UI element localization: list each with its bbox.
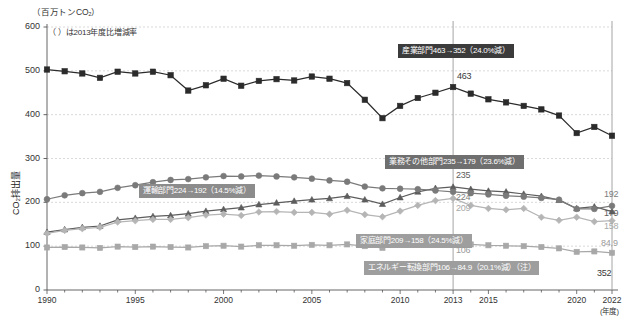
x-tick-2005: 2005 xyxy=(292,295,332,305)
y-tick-400: 400 xyxy=(14,109,40,119)
callout-industry: 産業部門463→352（24.0%減） xyxy=(398,44,514,58)
x-tick-2010: 2010 xyxy=(380,295,420,305)
value-label-household-2013: 209 xyxy=(456,203,470,213)
series-commercial xyxy=(44,184,615,235)
value-label-energy-2013: 106 xyxy=(456,245,470,255)
x-axis-unit: (年度) xyxy=(600,305,619,316)
value-label-commercial-2022: 179 xyxy=(604,208,618,218)
note-label: （ ）は2013年度比増減率 xyxy=(48,26,137,37)
x-tick-1995: 1995 xyxy=(115,295,155,305)
series-layer xyxy=(44,67,616,256)
callout-energy: エネルギー転換部門106→84.9（20.1%減）（注） xyxy=(364,261,539,275)
value-label-commercial-2013: 235 xyxy=(456,170,470,180)
value-label-transport-2013: 224 xyxy=(456,192,470,202)
y-axis-title: CO₂排出量 xyxy=(9,171,22,215)
callout-household: 家庭部門209→158（24.5%減） xyxy=(356,234,472,248)
series-industry xyxy=(44,67,614,139)
y-tick-500: 500 xyxy=(14,65,40,75)
series-household xyxy=(44,195,616,237)
x-tick-2000: 2000 xyxy=(204,295,244,305)
value-label-energy-2022: 84.9 xyxy=(601,238,618,248)
x-tick-2020: 2020 xyxy=(557,295,597,305)
value-label-household-2022: 158 xyxy=(604,221,618,231)
y-tick-600: 600 xyxy=(14,21,40,31)
callout-transport: 運輸部門224→192（14.5%減） xyxy=(139,184,255,198)
series-transport xyxy=(44,173,615,212)
value-label-industry-2013: 463 xyxy=(457,71,471,81)
y-tick-200: 200 xyxy=(14,196,40,206)
emissions-line-chart: （百万トンCO₂） （ ）は2013年度比増減率 CO₂排出量 (年度) 010… xyxy=(0,0,630,319)
series-energy xyxy=(44,239,614,256)
x-tick-2013: 2013 xyxy=(433,295,473,305)
callout-commercial: 業務その他部門235→179（23.6%減） xyxy=(385,155,524,169)
y-tick-300: 300 xyxy=(14,153,40,163)
x-tick-2015: 2015 xyxy=(468,295,508,305)
value-label-industry-2022: 352 xyxy=(597,268,611,278)
value-label-transport-2022: 192 xyxy=(604,189,618,199)
x-tick-1990: 1990 xyxy=(27,295,67,305)
y-tick-100: 100 xyxy=(14,240,40,250)
unit-label: （百万トンCO₂） xyxy=(32,5,100,17)
axes xyxy=(44,24,619,294)
x-tick-2022: 2022 xyxy=(592,295,630,305)
y-tick-0: 0 xyxy=(14,284,40,294)
